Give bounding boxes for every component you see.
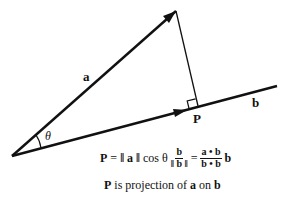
projection-formula: P = ‖ a ‖ cos θ b ‖ b ‖ = a • b b • b b bbox=[100, 147, 231, 169]
formula-lhs: P bbox=[100, 151, 107, 166]
formula-cos: cos θ bbox=[143, 151, 168, 166]
frac1-numerator: b bbox=[175, 147, 183, 159]
frac1-denominator: ‖ b ‖ bbox=[171, 159, 188, 170]
point-p-label: P bbox=[193, 112, 201, 125]
vector-a-label: a bbox=[83, 70, 90, 83]
projection-arrowhead-icon bbox=[173, 109, 187, 117]
formula-norm-a: ‖ a ‖ bbox=[120, 151, 140, 166]
formula-fraction-unit-b: b ‖ b ‖ bbox=[171, 147, 188, 169]
formula-trailing-b: b bbox=[225, 151, 232, 166]
formula-fraction-dot: a • b b • b bbox=[200, 147, 221, 169]
caption-text-2: on bbox=[196, 178, 214, 192]
caption-text-1: is projection of bbox=[111, 178, 190, 192]
formula-equals-2: = bbox=[191, 151, 198, 166]
perpendicular-line bbox=[176, 11, 198, 106]
caption: P is projection of a on b bbox=[104, 178, 221, 193]
formula-equals: = bbox=[110, 151, 117, 166]
theta-label: θ bbox=[45, 130, 51, 142]
angle-arc-icon bbox=[36, 135, 41, 148]
projection-diagram bbox=[0, 0, 283, 199]
frac2-numerator: a • b bbox=[200, 147, 221, 159]
caption-b: b bbox=[214, 178, 221, 192]
vector-b-label: b bbox=[252, 96, 259, 109]
frac2-denominator: b • b bbox=[201, 159, 221, 170]
